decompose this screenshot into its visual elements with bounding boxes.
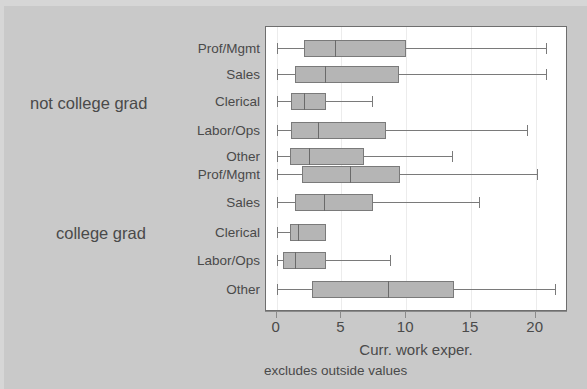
median-line: [309, 148, 310, 165]
category-labels: Prof/MgmtSalesClericalLabor/OpsOtherProf…: [110, 0, 260, 389]
category-label-4: Other: [226, 149, 260, 164]
whisker-cap-high: [537, 169, 538, 180]
box-iqr: [290, 224, 326, 241]
box-iqr: [295, 66, 399, 83]
box-iqr: [283, 252, 326, 269]
whisker-cap-low: [277, 227, 278, 238]
whisker-low: [277, 74, 295, 75]
box-iqr: [290, 148, 364, 165]
category-label-2: Clerical: [215, 94, 260, 109]
whisker-cap-low: [277, 255, 278, 266]
category-label-0: Prof/Mgmt: [198, 41, 260, 56]
whisker-cap-high: [546, 69, 547, 80]
box-iqr: [302, 166, 400, 183]
gridline-15: [471, 27, 472, 310]
median-line: [324, 194, 325, 211]
whisker-cap-high: [546, 43, 547, 54]
median-line: [350, 166, 351, 183]
whisker-low: [277, 48, 304, 49]
median-line: [304, 93, 305, 110]
whisker-cap-low: [277, 69, 278, 80]
whisker-cap-high: [390, 255, 391, 266]
whisker-high: [400, 174, 537, 175]
whisker-cap-high: [479, 197, 480, 208]
category-label-9: Other: [226, 282, 260, 297]
box-iqr: [291, 93, 326, 110]
whisker-cap-low: [277, 197, 278, 208]
tick-label-20: 20: [526, 318, 543, 335]
median-line: [295, 252, 296, 269]
median-line: [335, 40, 336, 57]
whisker-low: [277, 130, 291, 131]
category-label-8: Labor/Ops: [197, 253, 260, 268]
whisker-high: [454, 289, 555, 290]
box-iqr: [291, 122, 386, 139]
whisker-high: [406, 48, 546, 49]
median-line: [298, 224, 299, 241]
whisker-cap-high: [555, 284, 556, 295]
whisker-low: [277, 101, 291, 102]
category-label-5: Prof/Mgmt: [198, 167, 260, 182]
box-iqr: [312, 281, 454, 298]
whisker-cap-high: [452, 151, 453, 162]
figure-note: excludes outside values: [264, 363, 407, 378]
category-label-3: Labor/Ops: [197, 123, 260, 138]
tick-label-15: 15: [462, 318, 479, 335]
x-axis-line: [265, 311, 567, 312]
whisker-high: [364, 156, 452, 157]
whisker-cap-low: [277, 169, 278, 180]
category-label-7: Clerical: [215, 225, 260, 240]
whisker-low: [277, 232, 290, 233]
category-label-1: Sales: [226, 67, 260, 82]
category-label-6: Sales: [226, 195, 260, 210]
whisker-cap-low: [277, 125, 278, 136]
box-iqr: [304, 40, 406, 57]
tick-label-10: 10: [397, 318, 414, 335]
tick-label-5: 5: [336, 318, 344, 335]
whisker-low: [277, 202, 295, 203]
whisker-cap-low: [277, 284, 278, 295]
median-line: [388, 281, 389, 298]
x-axis-title: Curr. work exper.: [359, 341, 472, 358]
median-line: [325, 66, 326, 83]
whisker-high: [399, 74, 547, 75]
tick-label-0: 0: [272, 318, 280, 335]
whisker-cap-high: [372, 96, 373, 107]
whisker-cap-low: [277, 151, 278, 162]
whisker-high: [386, 130, 527, 131]
whisker-low: [277, 174, 302, 175]
gridline-10: [406, 27, 407, 310]
box-iqr: [295, 194, 373, 211]
boxplot-figure: not college gradcollege grad Prof/MgmtSa…: [0, 0, 587, 389]
whisker-cap-low: [277, 43, 278, 54]
whisker-high: [373, 202, 479, 203]
whisker-high: [326, 101, 371, 102]
whisker-cap-high: [527, 125, 528, 136]
whisker-high: [326, 260, 389, 261]
median-line: [318, 122, 319, 139]
whisker-low: [277, 156, 290, 157]
whisker-low: [277, 289, 312, 290]
whisker-cap-low: [277, 96, 278, 107]
